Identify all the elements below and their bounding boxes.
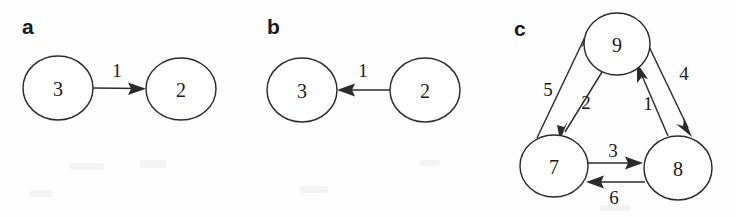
panel-c: c 5 2 1 4 <box>490 0 736 217</box>
node-3: 3 <box>23 56 93 120</box>
node-2: 2 <box>390 58 460 122</box>
figure-directed-graphs: a 1 3 2 b <box>0 0 736 217</box>
edge-8-to-7: 6 <box>586 176 645 208</box>
node-2: 2 <box>146 58 216 120</box>
edge-9-to-8: 4 <box>643 34 692 137</box>
node-label: 3 <box>53 78 63 100</box>
edge-7-to-8: 3 <box>587 140 643 170</box>
arrowhead-icon <box>676 118 692 137</box>
node-label: 7 <box>549 156 559 178</box>
panel-b: b 1 3 2 <box>245 0 490 217</box>
node-label: 2 <box>176 79 186 101</box>
edge-weight-label: 6 <box>609 187 619 208</box>
node-8: 8 <box>644 136 712 200</box>
panel-a-graph: 1 3 2 <box>0 0 245 217</box>
node-3: 3 <box>267 58 337 122</box>
edge-weight-label: 1 <box>643 93 653 114</box>
edge-weight-label: 4 <box>679 63 689 84</box>
edge-3-to-2: 1 <box>93 60 146 96</box>
node-9: 9 <box>584 13 650 75</box>
node-label: 8 <box>673 158 683 180</box>
node-label: 3 <box>297 80 307 102</box>
edge-8-to-9: 1 <box>637 63 668 136</box>
edge-2-to-3: 1 <box>337 60 390 97</box>
panel-c-graph: 5 2 1 4 <box>490 0 736 217</box>
edge-weight-label: 3 <box>608 140 618 161</box>
node-label: 9 <box>612 34 622 56</box>
panel-a: a 1 3 2 <box>0 0 245 217</box>
node-7: 7 <box>520 135 588 197</box>
edge-weight-label: 2 <box>581 92 591 113</box>
edge-weight-label: 1 <box>112 60 122 81</box>
edge-weight-label: 1 <box>358 60 368 81</box>
edge-weight-label: 5 <box>543 79 553 100</box>
node-label: 2 <box>420 80 430 102</box>
panel-b-graph: 1 3 2 <box>245 0 490 217</box>
